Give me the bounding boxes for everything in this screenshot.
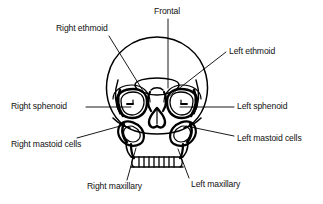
label-right-sphenoid: Right sphenoid: [11, 101, 67, 111]
leader-right-mastoid-cells: [77, 125, 124, 138]
label-right-maxillary: Right maxillary: [87, 181, 142, 191]
label-right-ethmoid: Right ethmoid: [56, 23, 108, 33]
label-left-sphenoid: Left sphenoid: [237, 101, 287, 111]
teeth-row: [132, 157, 183, 167]
sinus-anatomy-diagram: Frontal Right ethmoid Left ethmoid Right…: [0, 0, 323, 204]
label-frontal: Frontal: [154, 6, 180, 16]
label-left-ethmoid: Left ethmoid: [229, 46, 275, 56]
leader-left-mastoid-cells: [186, 126, 234, 136]
frontal-sinus-outline: [135, 78, 179, 95]
leader-left-maxillary: [178, 149, 189, 178]
nasal-bridge-top: [151, 88, 163, 90]
leader-lines: [77, 19, 234, 180]
label-right-mastoid-cells: Right mastoid cells: [11, 139, 81, 149]
label-left-mastoid-cells: Left mastoid cells: [237, 133, 302, 143]
label-left-maxillary: Left maxillary: [191, 179, 240, 189]
